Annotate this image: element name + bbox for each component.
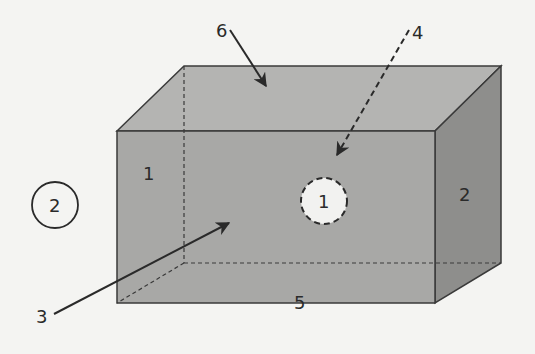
dashed-circle-label: 1: [318, 191, 329, 212]
diagram-canvas: 1 2 5 1 2 6 4 3: [0, 0, 535, 354]
solid-circle-label: 2: [49, 195, 60, 216]
right-face-label: 2: [459, 184, 470, 205]
callout-3-label: 3: [36, 306, 47, 327]
solid-circle-marker: 2: [32, 182, 78, 228]
box-top-face: [117, 66, 501, 131]
callout-4-label: 4: [412, 22, 423, 43]
dashed-circle-marker: 1: [301, 178, 347, 224]
bottom-face-label: 5: [294, 292, 305, 313]
front-face-label: 1: [143, 163, 154, 184]
callout-6-label: 6: [216, 20, 227, 41]
box-front-face: [117, 131, 435, 303]
